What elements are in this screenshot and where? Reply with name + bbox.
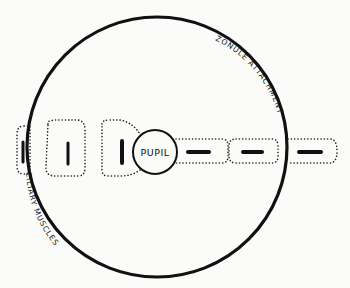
zonule-attachment-text: ZONULE ATTACHMENT <box>214 34 285 116</box>
eye-diagram: PUPIL ZONULE ATTACHMENT CILIARY MUSCLES <box>0 0 350 288</box>
zonule-attachment-label: ZONULE ATTACHMENT <box>214 34 285 116</box>
pupil-label: PUPIL <box>140 147 169 158</box>
compartment-left-middle <box>46 120 85 176</box>
